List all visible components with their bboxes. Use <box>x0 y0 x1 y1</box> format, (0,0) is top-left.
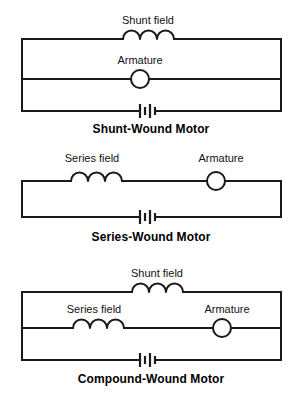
shunt-field-inductor-icon <box>132 284 183 293</box>
battery-icon <box>140 353 155 367</box>
armature-icon <box>213 319 231 337</box>
armature-label: Armature <box>117 54 162 66</box>
series-field-label: Series field <box>67 303 121 315</box>
armature-label: Armature <box>198 152 243 164</box>
shunt-field-label: Shunt field <box>122 14 174 26</box>
series-field-inductor-icon <box>71 173 122 182</box>
circuit-shunt-wound: Shunt field Armature Shunt-Wound Motor <box>22 14 281 136</box>
series-field-inductor-icon <box>73 320 124 329</box>
circuit-series-wound: Series field Armature Series-Wound Motor <box>22 152 281 244</box>
shunt-field-inductor-icon <box>123 31 174 40</box>
circuit-title-series-wound: Series-Wound Motor <box>92 230 211 244</box>
battery-icon <box>140 210 155 224</box>
motor-schematics-figure: Shunt field Armature Shunt-Wound Motor <box>0 0 303 399</box>
circuit-title-shunt-wound: Shunt-Wound Motor <box>93 122 210 136</box>
schematic-canvas: Shunt field Armature Shunt-Wound Motor <box>0 0 303 399</box>
armature-icon <box>207 172 225 190</box>
circuit-compound-wound: Shunt field Series field Armature Compou… <box>22 267 281 386</box>
battery-icon <box>140 104 155 118</box>
series-field-label: Series field <box>65 152 119 164</box>
circuit-title-compound-wound: Compound-Wound Motor <box>78 372 225 386</box>
shunt-field-label: Shunt field <box>131 267 183 279</box>
armature-icon <box>131 70 149 88</box>
armature-label: Armature <box>204 303 249 315</box>
